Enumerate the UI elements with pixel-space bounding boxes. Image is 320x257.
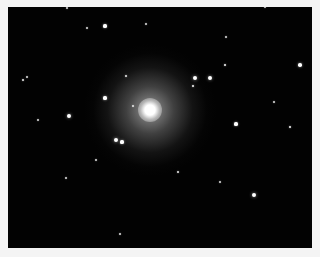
star <box>273 101 275 103</box>
star <box>132 105 134 107</box>
star <box>234 122 237 125</box>
star <box>252 193 257 198</box>
astronomical-image <box>8 7 312 248</box>
star <box>264 7 266 8</box>
star <box>298 63 302 67</box>
star <box>119 233 121 235</box>
star <box>289 126 292 129</box>
star <box>177 171 179 173</box>
star <box>103 24 106 27</box>
star <box>86 27 88 29</box>
star <box>224 64 227 67</box>
star <box>37 119 39 121</box>
star <box>65 177 67 179</box>
star <box>145 23 147 25</box>
star <box>208 76 212 80</box>
star <box>120 140 123 143</box>
galaxy-core <box>138 98 162 122</box>
star <box>22 79 24 81</box>
star <box>67 114 71 118</box>
star <box>225 36 227 38</box>
star <box>95 159 97 161</box>
star <box>26 76 28 78</box>
star <box>219 181 221 183</box>
star <box>66 7 68 9</box>
star <box>103 96 106 99</box>
